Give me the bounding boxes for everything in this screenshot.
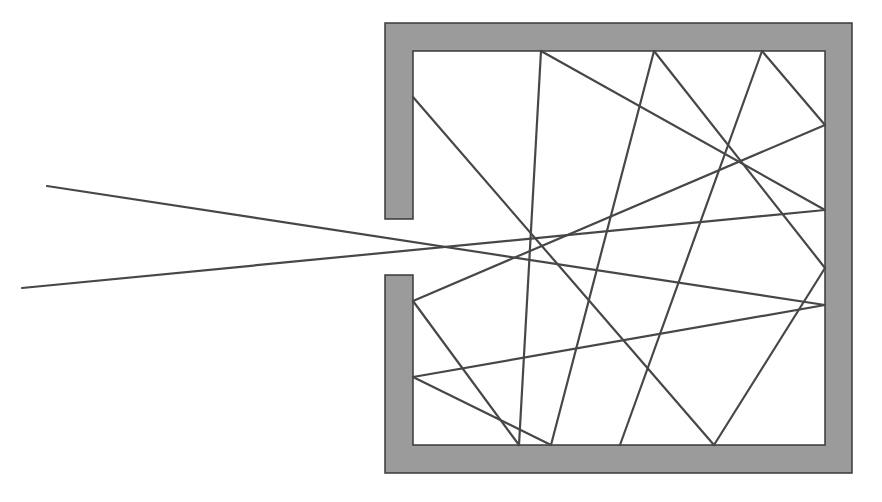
cavity-diagram: Light ray trapped in a cavity with a sma… [0,0,882,502]
background [0,0,882,502]
